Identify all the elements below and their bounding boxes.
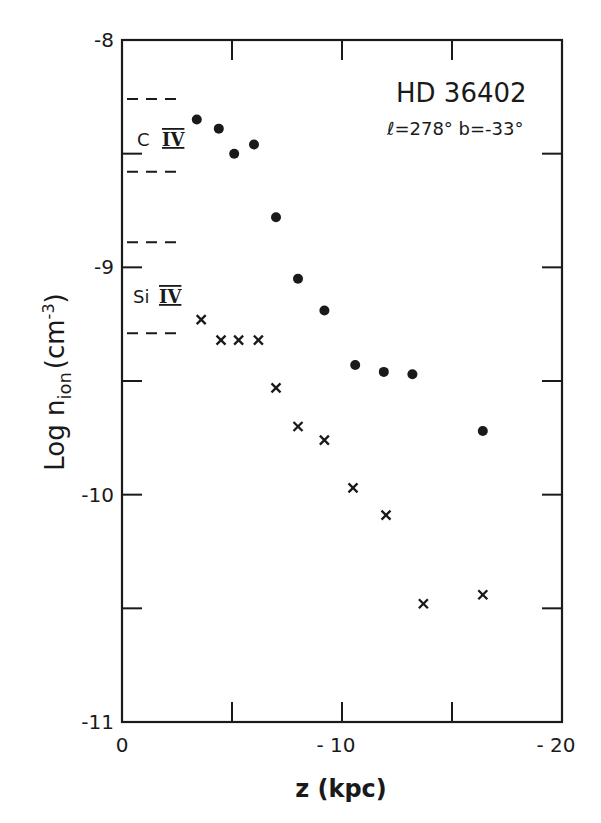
galactic-coordinates: ℓ=278° b=-33°	[386, 118, 524, 139]
ylabel-main: Log n	[40, 400, 70, 471]
civ-data-point	[478, 426, 488, 436]
y-axis-title: Log nion(cm-3)	[39, 293, 75, 470]
plot-frame	[122, 40, 562, 722]
siiv-stage-label: IV	[159, 286, 182, 307]
siiv-data-point	[294, 422, 303, 431]
x-axis-title: z (kpc)	[295, 775, 387, 803]
siiv-data-point	[234, 336, 243, 345]
siiv-data-point	[197, 315, 206, 324]
y-tick-label: -10	[81, 483, 114, 507]
plot-border	[122, 40, 562, 722]
siiv-data-point	[254, 336, 263, 345]
legend-civ: C IV	[137, 129, 185, 150]
civ-data-point	[271, 212, 281, 222]
siiv-data-point	[382, 511, 391, 520]
civ-data-point	[229, 149, 239, 159]
x-tick-label: 0	[116, 733, 129, 757]
y-tick-label: -8	[94, 28, 114, 52]
chart-title: HD 36402	[396, 78, 527, 108]
y-tick-label: -11	[81, 710, 114, 734]
civ-data-point	[407, 369, 417, 379]
civ-data-point	[350, 360, 360, 370]
ylabel-sub: ion	[54, 372, 75, 399]
civ-data-point	[293, 274, 303, 284]
ylabel-unit-close: )	[40, 293, 70, 303]
siiv-data-point	[478, 590, 487, 599]
siiv-data-point	[349, 483, 358, 492]
svg-text:Log nion(cm-3): Log nion(cm-3)	[39, 293, 75, 470]
x-tick-label: - 10	[316, 733, 355, 757]
siiv-data-point	[320, 436, 329, 445]
ylabel-unit-open: (cm	[40, 319, 70, 369]
civ-data-point	[379, 367, 389, 377]
y-tick-label: -9	[94, 255, 114, 279]
civ-stage-label: IV	[162, 129, 185, 150]
civ-element-label: C	[137, 129, 150, 150]
siiv-data-point	[272, 383, 281, 392]
ylabel-sup: -3	[39, 303, 58, 319]
legend-siiv: Si IV	[133, 286, 182, 307]
x-tick-label: - 20	[536, 733, 575, 757]
data-points	[192, 115, 488, 609]
civ-data-point	[214, 124, 224, 134]
axis-ticks	[122, 40, 562, 722]
civ-data-point	[249, 140, 259, 150]
chart-canvas: 0- 10- 20-8-9-10-11 HD 36402 ℓ=278° b=-3…	[0, 0, 601, 823]
siiv-element-label: Si	[133, 286, 149, 307]
siiv-data-point	[419, 599, 428, 608]
siiv-data-point	[217, 336, 226, 345]
civ-data-point	[192, 115, 202, 125]
civ-data-point	[319, 306, 329, 316]
